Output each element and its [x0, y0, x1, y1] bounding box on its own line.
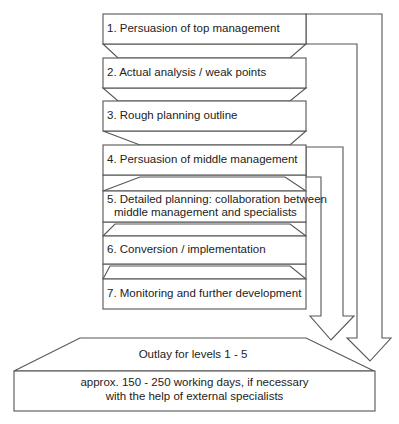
step-label-2: 2. Actual analysis / weak points	[107, 66, 266, 79]
arrow-from-level-1	[306, 14, 391, 361]
connector-2-3	[103, 88, 306, 101]
step-label-1: 1. Persuasion of top management	[107, 22, 280, 35]
outlay-line2: with the help of external specialists	[14, 390, 375, 403]
process-diagram: 1. Persuasion of top management 2. Actua…	[0, 0, 399, 424]
outlay-title: Outlay for levels 1 - 5	[80, 348, 306, 361]
connector-3-4	[103, 131, 306, 145]
step-label-5-line1: 5. Detailed planning: collaboration betw…	[107, 193, 327, 206]
step-label-5-line2: middle management and specialists	[114, 206, 297, 219]
outlay-line1: approx. 150 - 250 working days, if neces…	[14, 376, 375, 389]
step-label-6: 6. Conversion / implementation	[107, 243, 266, 256]
connector-1-2	[103, 44, 306, 58]
step-label-7: 7. Monitoring and further development	[107, 287, 301, 300]
step-label-4: 4. Persuasion of middle management	[107, 153, 298, 166]
arrow-from-level-4	[306, 147, 354, 340]
step-label-3: 3. Rough planning outline	[107, 109, 237, 122]
